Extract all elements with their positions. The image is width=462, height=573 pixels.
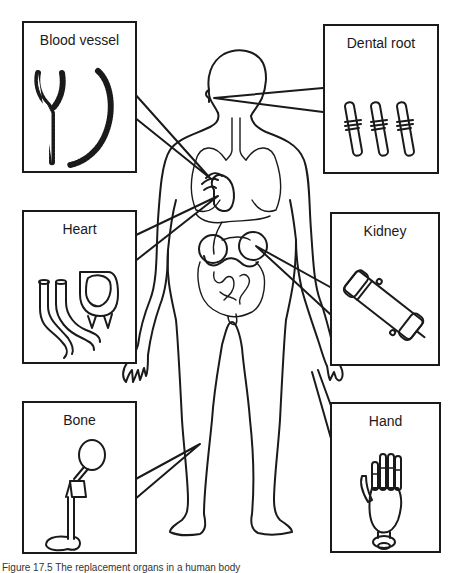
figure-caption: Figure 17.5 The replacement organs in a … (2, 562, 240, 573)
kidney-organ-right (239, 232, 267, 260)
dental-implant-icon (325, 26, 441, 176)
intestines (198, 262, 265, 317)
pointer-dental-root (214, 88, 323, 112)
panel-bone: Bone (22, 401, 137, 554)
dialyzer-icon (332, 214, 442, 368)
legs-outline (168, 240, 296, 535)
panel-hand: Hand (330, 402, 441, 553)
panel-heart: Heart (22, 210, 137, 364)
heart-organ (212, 175, 234, 211)
pointer-bone (134, 444, 200, 500)
prosthetic-hand-icon (332, 404, 443, 555)
vascular-graft-icon (24, 23, 139, 175)
pointer-kidney (256, 246, 330, 314)
hip-prosthesis-icon (24, 403, 139, 556)
panel-blood-vessel: Blood vessel (22, 21, 137, 173)
pointer-blood-vessel (134, 93, 210, 178)
artificial-heart-icon (24, 212, 139, 366)
pointer-heart (134, 196, 218, 262)
panel-dental-root: Dental root (323, 24, 439, 174)
head-outline (208, 50, 266, 116)
panel-kidney: Kidney (330, 212, 440, 366)
